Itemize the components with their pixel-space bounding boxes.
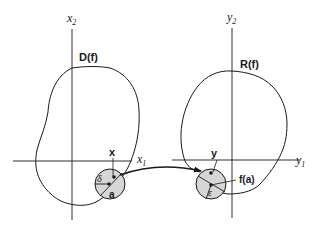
y2-axis-label: y2 — [226, 10, 236, 26]
diagram-canvas: x2 x1 D(f) x δ a y2 y1 R(f) y f(a) ε — [0, 0, 316, 228]
x-point-label: x — [109, 146, 116, 158]
range-label: R(f) — [240, 58, 259, 70]
domain-label: D(f) — [79, 51, 98, 63]
y-point-label: y — [211, 147, 218, 159]
point-y — [209, 171, 213, 175]
point-a — [107, 182, 111, 186]
x1-axis-label: x1 — [136, 152, 146, 168]
right-panel: y2 y1 R(f) y f(a) ε — [172, 10, 305, 218]
epsilon-label: ε — [208, 187, 212, 198]
a-point-label: a — [109, 189, 115, 200]
delta-label: δ — [97, 173, 102, 184]
left-panel: x2 x1 D(f) x δ a — [13, 11, 146, 220]
y1-axis-label: y1 — [295, 153, 305, 169]
range-region — [181, 71, 287, 194]
mapping-arrow — [120, 167, 201, 175]
x2-axis-label: x2 — [66, 11, 76, 27]
fa-point-label: f(a) — [239, 174, 255, 185]
